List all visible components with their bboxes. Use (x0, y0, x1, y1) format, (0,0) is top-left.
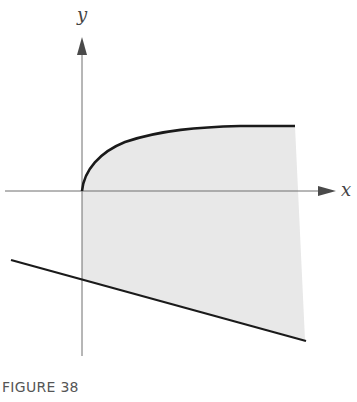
figure-caption: FIGURE 38 (2, 380, 79, 394)
y-axis-label: y (77, 6, 87, 24)
plot-canvas (0, 0, 357, 402)
y-axis-arrowhead-icon (77, 37, 87, 55)
x-axis-arrowhead-icon (318, 186, 336, 196)
shaded-region (82, 126, 305, 340)
x-axis-label: x (341, 181, 351, 199)
figure-38: y x FIGURE 38 (0, 0, 357, 402)
